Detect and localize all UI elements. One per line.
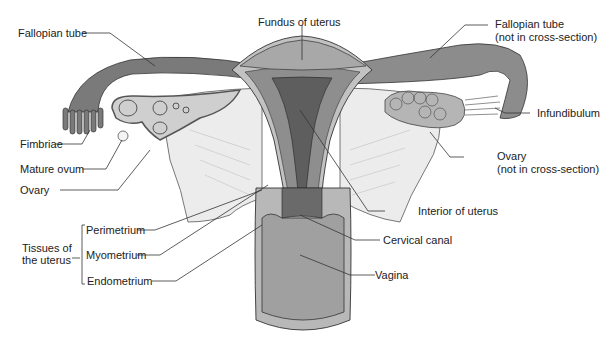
fundus-shape [240, 40, 366, 70]
label-infundibulum: Infundibulum [537, 107, 600, 120]
label-ovary-left: Ovary [20, 184, 49, 197]
label-ovary-right-note: (not in cross-section) [497, 163, 599, 176]
label-fimbriae: Fimbriae [20, 138, 63, 151]
label-vagina: Vagina [375, 269, 408, 282]
label-fallopian-tube-right: Fallopian tube [495, 18, 564, 31]
uterus-diagram: Fallopian tube Fundus of uterus Fallopia… [0, 0, 610, 340]
label-fallopian-tube: Fallopian tube [18, 27, 87, 40]
label-myometrium: Myometrium [86, 249, 147, 262]
mature-ovum-shape [118, 131, 128, 141]
cervix-shape [282, 188, 322, 218]
label-mature-ovum: Mature ovum [20, 163, 84, 176]
label-interior-of-uterus: Interior of uterus [418, 205, 498, 218]
label-ovary-right: Ovary [497, 150, 526, 163]
label-cervical-canal: Cervical canal [383, 234, 452, 247]
vagina-inner [262, 214, 344, 320]
label-fundus-of-uterus: Fundus of uterus [258, 16, 341, 29]
label-perimetrium: Perimetrium [86, 224, 145, 237]
label-the-uterus: the uterus [22, 254, 71, 267]
label-fallopian-tube-right-note: (not in cross-section) [495, 31, 597, 44]
label-endometrium: Endometrium [87, 275, 152, 288]
